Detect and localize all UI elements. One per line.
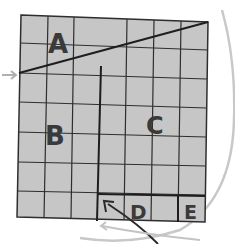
- region-label-e: E: [184, 201, 197, 223]
- grid-diagram: A B C D E: [0, 0, 235, 244]
- region-label-c: C: [146, 112, 164, 140]
- left-arrow-icon: [2, 71, 16, 79]
- region-label-a: A: [48, 29, 68, 59]
- region-label-b: B: [45, 121, 65, 151]
